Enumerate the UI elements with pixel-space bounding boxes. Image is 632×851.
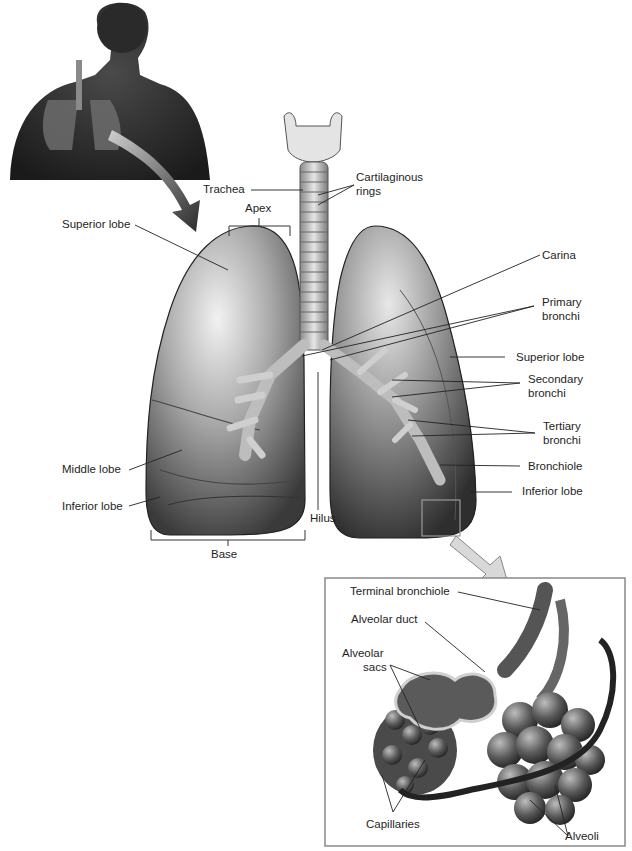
- diagram-artwork: [0, 0, 632, 851]
- label-base: Base: [211, 548, 237, 561]
- label-apex: Apex: [245, 202, 271, 215]
- label-cartilaginous-rings-line1: Cartilaginous: [356, 171, 423, 184]
- label-tertiary-bronchi-line1: Tertiary: [543, 420, 581, 433]
- label-terminal-bronchiole: Terminal bronchiole: [350, 585, 450, 598]
- label-cartilaginous-rings-line2: rings: [356, 185, 381, 198]
- label-tertiary-bronchi-line2: bronchi: [543, 434, 581, 447]
- label-superior-lobe-left: Superior lobe: [62, 218, 130, 231]
- label-superior-lobe-right: Superior lobe: [516, 351, 584, 364]
- label-secondary-bronchi-line1: Secondary: [528, 373, 583, 386]
- label-primary-bronchi-line1: Primary: [542, 296, 582, 309]
- label-bronchiole: Bronchiole: [528, 460, 582, 473]
- label-alveolar-sacs-line2: sacs: [363, 661, 387, 674]
- label-capillaries: Capillaries: [366, 818, 420, 831]
- label-primary-bronchi-line2: bronchi: [542, 310, 580, 323]
- label-trachea: Trachea: [203, 183, 245, 196]
- label-inferior-lobe-right: Inferior lobe: [522, 485, 583, 498]
- label-middle-lobe: Middle lobe: [62, 463, 121, 476]
- label-secondary-bronchi-line2: bronchi: [528, 387, 566, 400]
- label-alveoli: Alveoli: [565, 830, 599, 843]
- right-lung: [330, 226, 476, 538]
- human-figure-illustration: [10, 3, 210, 180]
- label-hilus: Hilus: [310, 512, 336, 525]
- lung-anatomy-diagram: Trachea Cartilaginous rings Apex Superio…: [0, 0, 632, 851]
- label-alveolar-duct: Alveolar duct: [351, 613, 417, 626]
- left-lung: [146, 226, 305, 535]
- label-alveolar-sacs-line1: Alveolar: [342, 647, 384, 660]
- label-carina: Carina: [542, 249, 576, 262]
- label-inferior-lobe-left: Inferior lobe: [62, 500, 123, 513]
